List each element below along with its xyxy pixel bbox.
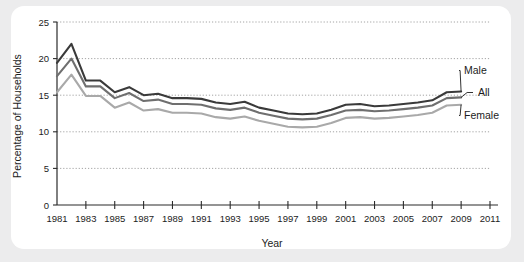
x-tick-label: 1997: [277, 213, 298, 224]
y-tick-label: 20: [38, 53, 49, 64]
x-tick-label: 1989: [162, 213, 183, 224]
series-line-female: [57, 75, 461, 128]
series-line-all: [57, 59, 461, 120]
leader-line-female: [459, 105, 461, 116]
series-label-all: All: [478, 86, 490, 98]
line-chart: 0510152025 19811983198519871989199119931…: [0, 0, 524, 262]
x-tick-label: 2007: [422, 213, 443, 224]
y-axis-title: Percentage of Households: [11, 54, 23, 178]
series-label-female: Female: [464, 109, 499, 121]
y-tick-label: 15: [38, 90, 49, 101]
y-tick-label: 0: [44, 200, 49, 211]
x-tick-label: 1993: [220, 213, 241, 224]
y-tick-label: 5: [44, 163, 49, 174]
series-lines: [57, 44, 461, 127]
chart-screenshot: 0510152025 19811983198519871989199119931…: [0, 0, 524, 262]
x-tick-label: 1983: [75, 213, 96, 224]
x-tick-label: 1985: [104, 213, 125, 224]
x-tick-label: 2005: [393, 213, 414, 224]
x-tick-label: 1999: [306, 213, 327, 224]
series-annotations: MaleAllFemale: [459, 64, 499, 121]
x-tick-label: 1995: [248, 213, 269, 224]
x-tick-label: 1987: [133, 213, 154, 224]
x-tick-label: 2009: [451, 213, 472, 224]
x-axis: 1981198319851987198919911993199519971999…: [46, 201, 500, 224]
x-tick-label: 2001: [335, 213, 356, 224]
leader-line-male: [459, 71, 461, 92]
y-axis: 0510152025: [38, 17, 57, 211]
series-line-male: [57, 44, 461, 114]
series-label-male: Male: [464, 64, 487, 76]
x-axis-title: Year: [261, 237, 283, 249]
y-tick-label: 10: [38, 126, 49, 137]
x-tick-label: 1991: [191, 213, 212, 224]
y-tick-label: 25: [38, 17, 49, 28]
x-tick-label: 1981: [46, 213, 67, 224]
x-tick-label: 2003: [364, 213, 385, 224]
x-tick-label: 2011: [480, 213, 500, 224]
